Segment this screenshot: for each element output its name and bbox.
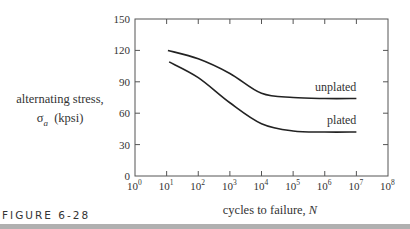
y-tick-label: 30	[119, 139, 131, 151]
y-axis-label: alternating stress, σa (kpsi)	[4, 90, 116, 133]
y-tick-label: 0	[125, 170, 131, 182]
series-label-unplated: unplated	[315, 80, 356, 94]
x-axis-label: cycles to failure, N	[190, 203, 350, 218]
x-tick-label: 106	[317, 178, 332, 192]
y-axis-label-line2: σa (kpsi)	[4, 109, 116, 133]
x-axis-label-text: cycles to failure,	[223, 203, 309, 217]
y-tick-label: 60	[119, 107, 131, 119]
x-tick-label: 107	[348, 178, 363, 192]
x-tick-label: 102	[190, 178, 205, 192]
plot-frame	[135, 19, 388, 176]
x-tick-label: 105	[285, 178, 300, 192]
y-axis-label-line1: alternating stress,	[4, 90, 116, 109]
x-axis-variable: N	[309, 203, 317, 217]
y-tick-label: 90	[119, 76, 131, 88]
caption-divider	[0, 224, 410, 229]
y-tick-label: 150	[114, 13, 131, 25]
y-tick-label: 120	[114, 44, 131, 56]
x-tick-label: 108	[380, 178, 395, 192]
series-label-plated: plated	[327, 113, 356, 127]
sigma-subscript: a	[43, 118, 48, 128]
x-tick-label: 101	[159, 178, 174, 192]
y-axis-unit: (kpsi)	[54, 111, 83, 125]
x-tick-label: 104	[254, 178, 269, 192]
figure-caption: FIGURE 6-28	[2, 209, 90, 221]
x-tick-label: 103	[222, 178, 237, 192]
